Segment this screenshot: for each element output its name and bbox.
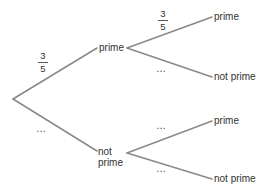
branch-prime-to-not-prime (127, 48, 212, 77)
branch-not-prime-to-not-prime (127, 153, 212, 179)
prob-not-prime-not-prime: … (156, 165, 167, 173)
leaf-not-prime-prime: prime (214, 115, 239, 126)
prob-root-not-prime: … (36, 125, 47, 133)
node-not-prime: not prime (98, 146, 123, 168)
prob-not-prime-prime: … (156, 122, 167, 130)
prob-root-prime: 3 5 (37, 51, 49, 74)
leaf-not-prime-not-prime: not prime (214, 173, 256, 184)
node-not-prime-line1: not (98, 146, 112, 157)
leaf-prime-not-prime: not prime (214, 71, 256, 82)
branch-root-to-prime (13, 48, 97, 99)
leaf-prime-prime: prime (214, 11, 239, 22)
prob-denominator: 5 (37, 64, 49, 74)
branch-not-prime-to-prime (127, 121, 212, 153)
prob-prime-prime: 3 5 (157, 9, 169, 32)
node-not-prime-line2: prime (98, 157, 123, 168)
prob-prime-not-prime: … (156, 65, 167, 73)
tree-diagram-lines (0, 0, 260, 190)
branch-prime-to-prime (127, 17, 212, 48)
prob-numerator: 3 (37, 51, 49, 61)
branch-root-to-not-prime (13, 99, 97, 151)
prob-denominator: 5 (157, 22, 169, 32)
node-prime: prime (99, 42, 124, 53)
prob-numerator: 3 (157, 9, 169, 19)
